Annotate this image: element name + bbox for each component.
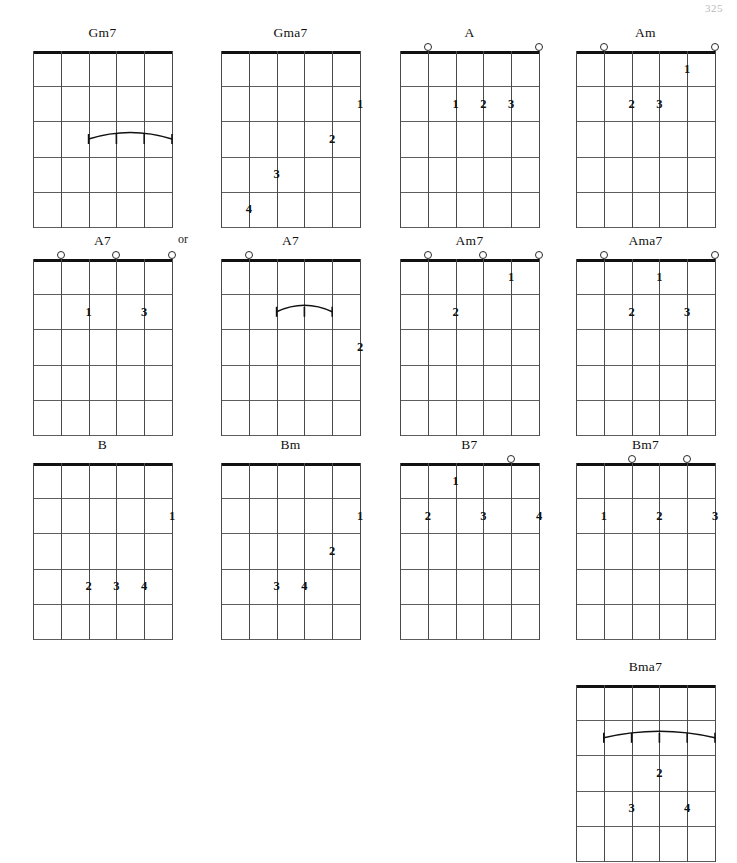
open-string-circle-icon	[683, 455, 691, 463]
string-line	[456, 259, 457, 436]
string-line	[304, 51, 305, 228]
fret-line	[400, 569, 540, 570]
barre-arc-icon	[221, 259, 362, 437]
fretboard: 1234	[221, 463, 360, 639]
fret-line	[576, 192, 716, 193]
open-strings-row	[221, 453, 360, 463]
string-line	[539, 259, 540, 436]
string-line	[144, 51, 145, 228]
string-line	[61, 463, 62, 640]
fret-line	[400, 533, 540, 534]
string-line	[116, 51, 117, 228]
fret-line	[400, 192, 540, 193]
nut-bar	[400, 51, 540, 54]
barre-arc-icon	[576, 685, 717, 863]
open-string-circle-icon	[628, 455, 636, 463]
fretboard: 123	[400, 51, 539, 227]
open-string-circle-icon	[535, 43, 543, 51]
string-line	[659, 259, 660, 436]
chord-diagram-a-2: A123	[400, 24, 539, 227]
finger-number: 4	[532, 509, 546, 523]
string-line	[715, 51, 716, 228]
finger-number: 1	[449, 474, 463, 488]
fretboard: 123	[576, 463, 715, 639]
fret-line	[221, 157, 361, 158]
open-string-circle-icon	[424, 251, 432, 259]
finger-number: 3	[504, 97, 518, 111]
finger-number: 2	[421, 509, 435, 523]
fret-line	[33, 294, 173, 295]
fret-line	[576, 533, 716, 534]
string-line	[604, 259, 605, 436]
fret-line	[221, 533, 361, 534]
fret-line	[400, 86, 540, 87]
open-strings-row	[400, 453, 539, 463]
nut-bar	[400, 463, 540, 466]
string-line	[249, 259, 250, 436]
string-line	[332, 259, 333, 436]
chord-name-label: Bma7	[576, 658, 715, 675]
nut-bar	[576, 259, 716, 262]
fret-line	[576, 400, 716, 401]
string-line	[221, 463, 222, 640]
finger-number: 3	[680, 305, 694, 319]
fret-line	[400, 498, 540, 499]
string-line	[89, 259, 90, 436]
nut-bar	[33, 259, 173, 262]
fret-line	[33, 192, 173, 193]
finger-number: 1	[353, 509, 367, 523]
fret-line	[576, 329, 716, 330]
chord-name-label: B7	[400, 436, 539, 453]
string-line	[221, 51, 222, 228]
string-line	[632, 259, 633, 436]
chord-name-label: Gma7	[221, 24, 360, 41]
string-line	[511, 259, 512, 436]
nut-bar	[221, 51, 361, 54]
string-line	[172, 259, 173, 436]
open-string-circle-icon	[535, 251, 543, 259]
string-line	[428, 259, 429, 436]
open-string-circle-icon	[711, 43, 719, 51]
finger-number: 2	[652, 766, 666, 780]
string-line	[172, 463, 173, 640]
string-line	[172, 51, 173, 228]
fret-line	[400, 329, 540, 330]
open-string-circle-icon	[479, 251, 487, 259]
string-line	[89, 463, 90, 640]
fret-line	[400, 400, 540, 401]
fret-line	[576, 569, 716, 570]
string-line	[511, 463, 512, 640]
fret-line	[576, 755, 716, 756]
string-line	[116, 463, 117, 640]
string-line	[456, 51, 457, 228]
string-line	[539, 51, 540, 228]
string-line	[249, 463, 250, 640]
fret-line	[400, 294, 540, 295]
fret-line	[221, 121, 361, 122]
nut-bar	[576, 51, 716, 54]
fret-line	[576, 227, 716, 228]
fret-line	[33, 227, 173, 228]
fret-line	[221, 329, 361, 330]
string-line	[659, 51, 660, 228]
chord-name-label: Bm	[221, 436, 360, 453]
open-string-circle-icon	[424, 43, 432, 51]
string-line	[304, 463, 305, 640]
fret-line	[576, 365, 716, 366]
string-line	[539, 463, 540, 640]
open-strings-row	[576, 675, 715, 685]
fret-line	[33, 569, 173, 570]
fret-line	[576, 720, 716, 721]
fret-line	[33, 329, 173, 330]
chord-diagram-b7-10: B71234	[400, 436, 539, 639]
chord-name-label: Am7	[400, 232, 539, 249]
string-line	[604, 51, 605, 228]
string-line	[428, 463, 429, 640]
fret-line	[221, 569, 361, 570]
fretboard: 1234	[33, 463, 172, 639]
string-line	[33, 463, 34, 640]
finger-number: 4	[242, 202, 256, 216]
fret-line	[576, 498, 716, 499]
finger-number: 2	[353, 340, 367, 354]
string-line	[687, 463, 688, 640]
